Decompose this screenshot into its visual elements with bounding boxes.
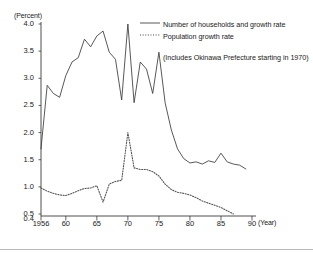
x-axis-ticks [41, 216, 252, 221]
bottom-divider-rule [0, 249, 313, 250]
chart-annotation-okinawa: (Includes Okinawa Prefecture starting in… [163, 53, 309, 62]
chart-figure: (Percent) (Year) 4.03.53.02.52.01.51.00.… [0, 0, 313, 253]
chart-plot-area [0, 0, 313, 253]
legend-label-households: Number of households and growth rate [163, 20, 285, 29]
legend-label-population: Population growth rate [163, 32, 234, 41]
series-line-population [41, 133, 233, 214]
series-line-households [41, 24, 246, 169]
